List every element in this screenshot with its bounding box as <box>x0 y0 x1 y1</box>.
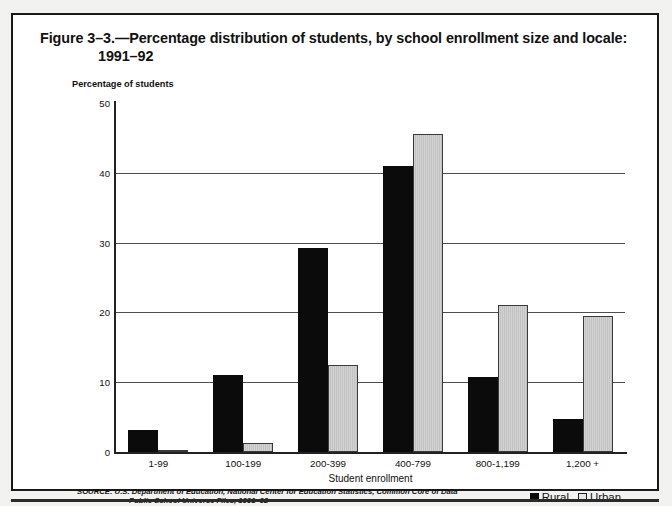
x-axis-tick-labels: 1-99100-199200-399400-799800-1,1991,200 … <box>116 458 625 469</box>
bar-group <box>455 103 540 452</box>
y-tick-label: 0 <box>76 447 110 458</box>
bar-rural <box>213 375 243 452</box>
bar-rural <box>128 430 158 452</box>
y-tick-label: 20 <box>76 307 110 318</box>
bar-rural <box>468 377 498 452</box>
bar-group <box>370 103 455 452</box>
source-note: SOURCE: U.S. Department of Education, Na… <box>77 487 507 505</box>
x-tick-label: 200-399 <box>286 458 371 469</box>
bar-urban <box>243 443 273 452</box>
page-bottom-rule <box>11 499 659 502</box>
x-tick-label: 1-99 <box>116 458 201 469</box>
y-axis-tick-labels: 01020304050 <box>73 103 110 452</box>
bar-series-container <box>116 103 625 452</box>
x-tick-label: 1,200 + <box>540 458 625 469</box>
bar-urban <box>583 316 613 452</box>
y-axis-title: Percentage of students <box>72 79 174 89</box>
bar-group <box>540 103 625 452</box>
bar-urban <box>158 450 188 452</box>
bar-group <box>116 103 201 452</box>
figure-title-line-2: 1991–92 <box>40 47 640 65</box>
x-axis-line <box>114 452 627 454</box>
bar-rural <box>298 248 328 453</box>
figure-frame: Figure 3–3.—Percentage distribution of s… <box>11 13 659 491</box>
figure-title: Figure 3–3.—Percentage distribution of s… <box>40 29 640 65</box>
figure-page: Figure 3–3.—Percentage distribution of s… <box>0 0 672 506</box>
bar-rural <box>383 166 413 452</box>
source-note-line-1: SOURCE: U.S. Department of Education, Na… <box>77 487 507 496</box>
bar-group <box>286 103 371 452</box>
y-tick-label: 10 <box>76 377 110 388</box>
x-tick-label: 400-799 <box>370 458 455 469</box>
bar-urban <box>328 365 358 452</box>
x-tick-label: 800-1,199 <box>455 458 540 469</box>
figure-title-line-1: Figure 3–3.—Percentage distribution of s… <box>40 29 640 47</box>
x-tick-label: 100-199 <box>201 458 286 469</box>
y-tick-label: 40 <box>76 167 110 178</box>
bar-urban <box>498 305 528 452</box>
x-axis-title: Student enrollment <box>116 473 625 484</box>
y-tick-label: 30 <box>76 237 110 248</box>
bar-urban <box>413 134 443 452</box>
bar-rural <box>553 419 583 453</box>
bar-group <box>201 103 286 452</box>
y-tick-label: 50 <box>76 98 110 109</box>
